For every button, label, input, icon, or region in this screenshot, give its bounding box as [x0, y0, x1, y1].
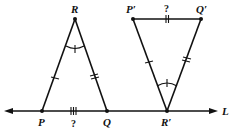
label-R-prime: R′: [160, 116, 171, 128]
vertex-R-prime-dot: [165, 109, 169, 113]
vertex-P-dot: [40, 109, 44, 113]
triangle-PQR-prime: [131, 15, 203, 113]
label-unknown-PQ: ?: [71, 118, 76, 129]
label-Q: Q: [103, 116, 111, 128]
vertex-R-dot: [73, 17, 77, 21]
line-L: [4, 108, 218, 114]
label-R: R: [70, 3, 78, 15]
label-unknown-P-prime-Q-prime: ?: [164, 3, 169, 14]
label-Q-prime: Q′: [196, 3, 207, 15]
side-PR-tick: [51, 77, 59, 79]
label-L: L: [221, 105, 229, 117]
right-arrow-icon: [209, 108, 218, 114]
label-P: P: [38, 116, 45, 128]
left-arrow-icon: [4, 108, 13, 114]
vertex-Q-prime-dot: [199, 17, 203, 21]
geometry-diagram: R P Q ? P′ Q′ R′ ? L: [0, 0, 232, 135]
vertex-P-prime-dot: [131, 17, 135, 21]
vertex-Q-dot: [105, 109, 109, 113]
triangle-PQR: [40, 17, 109, 115]
label-P-prime: P′: [126, 3, 136, 15]
